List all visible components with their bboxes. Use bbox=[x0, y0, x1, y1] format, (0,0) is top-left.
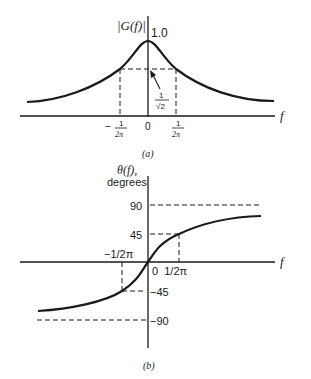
panel-a-half-power-num: 1 bbox=[159, 91, 164, 100]
panel-a-caption: (a) bbox=[142, 148, 154, 160]
panel-b-tick-90: 90 bbox=[130, 200, 142, 212]
panel-a-half-power-den: √2 bbox=[156, 102, 165, 111]
panel-a-x-label: f bbox=[280, 108, 286, 123]
panel-a-tick-neg-sign: − bbox=[105, 121, 111, 132]
panel-a-tick-neg-den: 2π bbox=[115, 130, 124, 139]
panel-b-tick-45: 45 bbox=[130, 229, 142, 241]
panel-b-y-label-1: θ(f), bbox=[117, 163, 137, 177]
panel-b-phase-plot: θ(f), degrees 90 45 −45 −90 −1/2π 0 1/2π… bbox=[20, 163, 286, 372]
panel-b-tick-zero-pos-freq: 0 1/2π bbox=[152, 265, 188, 277]
panel-a-tick-neg-num: 1 bbox=[119, 119, 124, 128]
figure: |G(f)| 1.0 1 √2 f − 1 2π 0 1 2π (a) θ(f)… bbox=[0, 0, 311, 379]
panel-a-y-label: |G(f)| bbox=[117, 18, 146, 33]
panel-a-tick-pos-num: 1 bbox=[176, 119, 181, 128]
panel-a-tick-zero: 0 bbox=[145, 121, 151, 132]
panel-a-tick-pos-den: 2π bbox=[172, 130, 181, 139]
panel-b-caption: (b) bbox=[143, 360, 155, 372]
panel-b-x-label: f bbox=[280, 254, 286, 269]
arrowhead-icon bbox=[150, 70, 156, 78]
panel-b-tick-neg45: −45 bbox=[150, 286, 169, 298]
panel-b-tick-neg90: −90 bbox=[150, 315, 169, 327]
panel-a-magnitude-plot: |G(f)| 1.0 1 √2 f − 1 2π 0 1 2π (a) bbox=[20, 16, 286, 160]
panel-a-peak-label: 1.0 bbox=[151, 26, 168, 40]
panel-b-tick-neg-freq: −1/2π bbox=[104, 248, 134, 260]
panel-b-y-label-2: degrees bbox=[107, 176, 147, 188]
